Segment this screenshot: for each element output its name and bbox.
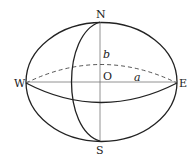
- label-origin: O: [103, 70, 112, 83]
- label-west: W: [14, 77, 26, 90]
- meridian-curve: [72, 22, 101, 141]
- label-semi-minor-b: b: [103, 48, 110, 61]
- equator-back-dashed: [26, 65, 177, 84]
- equator-front: [26, 83, 177, 103]
- label-semi-major-a: a: [134, 71, 141, 84]
- ellipsoid-diagram: N S W E O a b: [0, 0, 196, 163]
- label-south: S: [96, 144, 104, 157]
- label-east: E: [179, 77, 187, 90]
- label-north: N: [96, 8, 106, 21]
